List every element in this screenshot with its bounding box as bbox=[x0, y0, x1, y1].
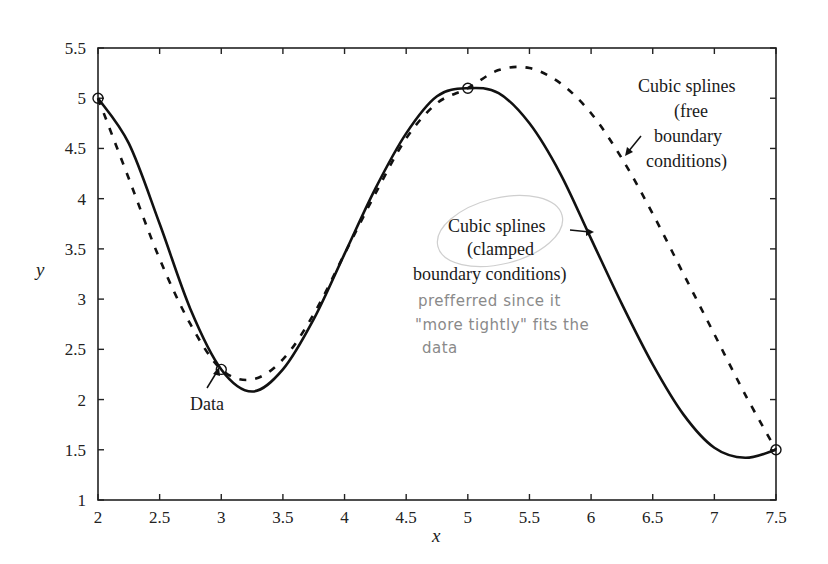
x-tick-label: 7.5 bbox=[765, 508, 786, 527]
spline-chart: 22.533.544.555.566.577.511.522.533.544.5… bbox=[0, 0, 828, 564]
arrow-icon bbox=[207, 367, 220, 388]
x-tick-label: 6.5 bbox=[642, 508, 663, 527]
x-tick-label: 2.5 bbox=[149, 508, 170, 527]
x-tick-label: 7 bbox=[710, 508, 719, 527]
y-tick-label: 3 bbox=[78, 290, 87, 309]
x-tick-label: 5 bbox=[464, 508, 473, 527]
free-annotation-line3: boundary bbox=[654, 126, 722, 146]
y-tick-label: 2 bbox=[78, 391, 87, 410]
y-tick-label: 4 bbox=[78, 190, 87, 209]
y-tick-label: 5 bbox=[78, 89, 87, 108]
free-annotation-line1: Cubic splines bbox=[638, 76, 736, 96]
x-tick-label: 5.5 bbox=[519, 508, 540, 527]
x-axis-label: x bbox=[431, 525, 441, 546]
x-tick-label: 3.5 bbox=[272, 508, 293, 527]
y-axis-label: y bbox=[34, 259, 45, 280]
clamped-annotation-line1: Cubic splines bbox=[448, 216, 546, 236]
free-annotation-line2: (free bbox=[674, 101, 708, 122]
data-annotation: Data bbox=[190, 394, 224, 414]
y-tick-label: 3.5 bbox=[65, 240, 86, 259]
y-tick-label: 2.5 bbox=[65, 340, 86, 359]
x-tick-label: 3 bbox=[217, 508, 226, 527]
x-tick-label: 4.5 bbox=[396, 508, 417, 527]
free-spline-curve bbox=[98, 67, 776, 450]
y-tick-label: 1 bbox=[78, 491, 87, 510]
handwritten-note-line3: data bbox=[422, 339, 458, 357]
free-annotation-line4: conditions) bbox=[646, 151, 727, 172]
y-tick-label: 1.5 bbox=[65, 441, 86, 460]
clamped-annotation-line2: (clamped bbox=[467, 239, 534, 260]
clamped-annotation-line3: boundary conditions) bbox=[413, 264, 566, 285]
handwritten-note-line1: prefferred since it bbox=[418, 292, 561, 310]
x-tick-label: 6 bbox=[587, 508, 596, 527]
x-tick-label: 2 bbox=[94, 508, 103, 527]
y-tick-label: 5.5 bbox=[65, 39, 86, 58]
handwritten-note-line2: "more tightly" fits the bbox=[415, 316, 589, 334]
y-tick-label: 4.5 bbox=[65, 139, 86, 158]
x-tick-label: 4 bbox=[340, 508, 349, 527]
arrow-icon bbox=[625, 136, 641, 156]
